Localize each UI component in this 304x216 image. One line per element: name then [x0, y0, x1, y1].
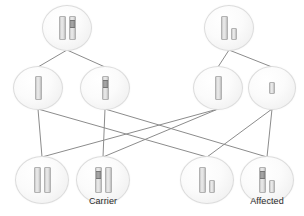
inheritance-edge	[67, 50, 105, 67]
cell-bubble	[248, 66, 296, 110]
chromosome-x-icon	[34, 167, 41, 193]
mutation-band-icon	[96, 171, 101, 179]
chromosome-group	[35, 76, 42, 100]
chromosome-x-icon	[69, 16, 76, 40]
cell-bubble	[180, 156, 234, 204]
chromosome-x-icon	[221, 16, 228, 40]
chromosome-y-icon	[269, 82, 275, 94]
cell-bubble	[15, 156, 69, 204]
cell-bubble	[13, 66, 63, 110]
caption-carrier: Carrier	[89, 196, 117, 206]
chromosome-y-icon	[209, 180, 215, 193]
pedigree-node-gamete-mother-x-mutant[interactable]	[80, 66, 130, 110]
pedigree-node-parent-father[interactable]	[204, 5, 254, 51]
cell-bubble	[80, 66, 130, 110]
inheritance-edge	[38, 50, 67, 67]
inheritance-edge	[38, 109, 42, 157]
mutation-band-icon	[260, 171, 265, 179]
inheritance-edge	[38, 109, 207, 157]
inheritance-edge	[207, 109, 272, 157]
pedigree-node-gamete-father-x[interactable]	[193, 66, 243, 110]
pedigree-node-gamete-father-y[interactable]	[248, 66, 296, 110]
inheritance-edge	[218, 50, 229, 67]
chromosome-group	[269, 82, 275, 94]
cell-bubble	[42, 5, 92, 51]
chromosome-y-icon	[269, 180, 275, 193]
chromosome-group	[102, 76, 109, 100]
chromosome-x-icon	[259, 167, 266, 193]
chromosome-x-icon	[215, 76, 222, 100]
pedigree-node-parent-mother[interactable]	[42, 5, 92, 51]
chromosome-group	[34, 167, 51, 193]
mutation-band-icon	[103, 80, 108, 88]
inheritance-edge	[267, 109, 272, 157]
chromosome-x-icon	[59, 16, 66, 40]
chromosome-x-icon	[44, 167, 51, 193]
chromosome-group	[199, 167, 215, 193]
chromosome-x-icon	[95, 167, 102, 193]
chromosome-group	[95, 167, 112, 193]
chromosome-x-icon	[105, 167, 112, 193]
chromosome-x-icon	[102, 76, 109, 100]
chromosome-y-icon	[231, 28, 237, 40]
cell-bubble	[193, 66, 243, 110]
pedigree-node-offspring-unaffected-male[interactable]	[180, 156, 234, 204]
chromosome-group	[59, 16, 76, 40]
pedigree-diagram: CarrierAffected	[0, 0, 304, 216]
cell-bubble	[204, 5, 254, 51]
inheritance-edge	[103, 109, 218, 157]
pedigree-node-offspring-unaffected-female[interactable]	[15, 156, 69, 204]
inheritance-edge	[229, 50, 272, 67]
pedigree-node-gamete-mother-x-normal[interactable]	[13, 66, 63, 110]
chromosome-x-icon	[35, 76, 42, 100]
chromosome-x-icon	[199, 167, 206, 193]
chromosome-group	[215, 76, 222, 100]
inheritance-edge	[103, 109, 105, 157]
chromosome-group	[259, 167, 275, 193]
chromosome-group	[221, 16, 237, 40]
caption-affected: Affected	[250, 196, 284, 206]
mutation-band-icon	[70, 20, 75, 28]
